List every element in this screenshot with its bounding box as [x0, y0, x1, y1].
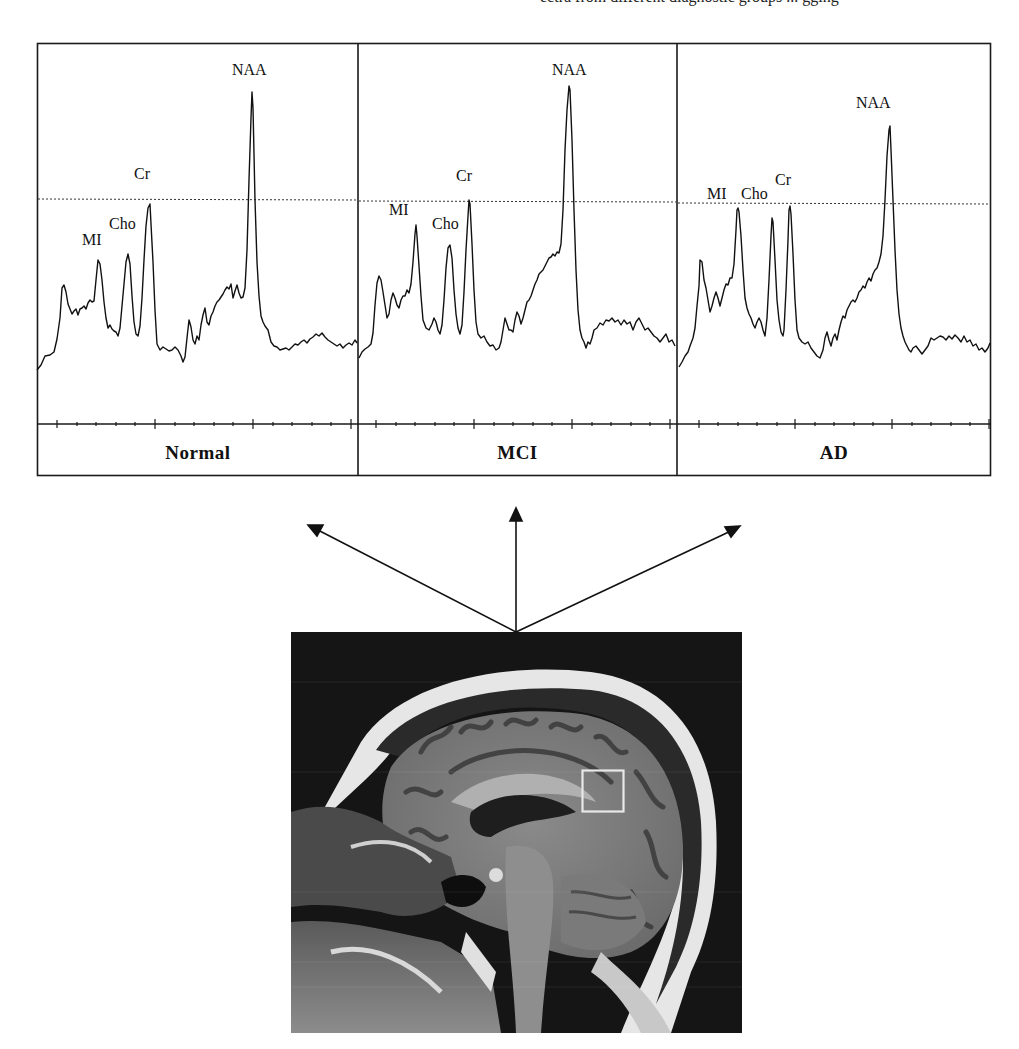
- peak-label-naa: NAA: [856, 95, 891, 111]
- reference-line: [38, 199, 357, 200]
- arrow-head-left-icon: [308, 525, 323, 536]
- panel-label-ad: AD: [677, 435, 991, 471]
- arrow-to-normal: [314, 528, 516, 632]
- reference-line: [678, 203, 990, 204]
- sagittal-mri-image: [291, 632, 742, 1033]
- peak-label-mi: MI: [707, 186, 727, 202]
- arrow-head-right-icon: [725, 526, 740, 537]
- arrow-to-ad: [516, 530, 733, 632]
- peak-label-cr: Cr: [134, 166, 150, 182]
- peak-label-naa: NAA: [552, 62, 587, 78]
- peak-label-mi: MI: [389, 202, 409, 218]
- spectrum-mci: [359, 86, 675, 358]
- panel-label-normal: Normal: [38, 435, 358, 471]
- peak-label-cho: Cho: [741, 186, 768, 202]
- peak-label-cho: Cho: [432, 216, 459, 232]
- peak-label-mi: MI: [82, 232, 102, 248]
- spectrum-ad: [679, 126, 990, 367]
- peak-label-naa: NAA: [232, 62, 267, 78]
- arrows: [308, 508, 740, 632]
- peak-label-cho: Cho: [109, 216, 136, 232]
- panel-label-mci: MCI: [358, 435, 677, 471]
- peak-label-cr: Cr: [456, 168, 472, 184]
- arrow-head-up-icon: [510, 508, 522, 521]
- figure-outer-frame: [38, 44, 991, 476]
- peak-label-cr: Cr: [775, 172, 791, 188]
